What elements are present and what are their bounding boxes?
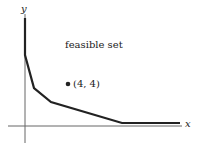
point-marker (66, 82, 71, 87)
y-axis-label: y (21, 3, 27, 14)
feasible-set-boundary (25, 18, 180, 123)
feasible-set-diagram: y x feasible set (4, 4) (0, 0, 197, 151)
diagram-canvas (0, 0, 197, 151)
x-axis-label: x (185, 118, 191, 129)
point-label: (4, 4) (73, 78, 100, 89)
feasible-set-label: feasible set (65, 39, 123, 50)
